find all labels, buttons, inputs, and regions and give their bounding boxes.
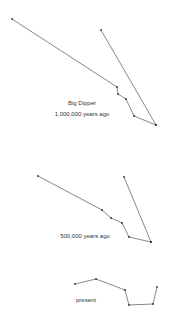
star-point bbox=[150, 241, 152, 243]
star-point bbox=[125, 98, 127, 100]
star-point bbox=[123, 176, 125, 178]
star-point bbox=[95, 278, 97, 280]
star-point bbox=[133, 115, 135, 117]
star-point bbox=[100, 29, 102, 31]
caption-500000-years: 500,000 years ago bbox=[60, 233, 110, 239]
caption-present: present bbox=[76, 297, 96, 303]
big-dipper-title: Big Dipper bbox=[68, 100, 96, 106]
caption-1000000-years: 1,000,000 years ago bbox=[55, 111, 110, 117]
star-point bbox=[116, 86, 118, 88]
constellation-line bbox=[124, 177, 151, 242]
star-point bbox=[110, 217, 112, 219]
star-point bbox=[121, 222, 123, 224]
star-point bbox=[128, 304, 130, 306]
star-point bbox=[11, 18, 13, 20]
star-point bbox=[128, 236, 130, 238]
star-point bbox=[74, 283, 76, 285]
star-point bbox=[101, 209, 103, 211]
star-point bbox=[155, 124, 157, 126]
star-point bbox=[117, 93, 119, 95]
constellation-diagram bbox=[0, 0, 169, 326]
star-point bbox=[156, 286, 158, 288]
constellation-line bbox=[12, 19, 156, 125]
star-point bbox=[152, 303, 154, 305]
star-point bbox=[124, 289, 126, 291]
constellation-panel-0 bbox=[11, 18, 157, 126]
star-point bbox=[37, 175, 39, 177]
